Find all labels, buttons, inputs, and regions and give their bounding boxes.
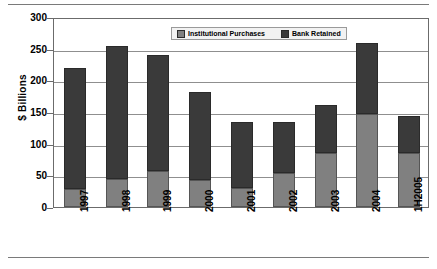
bar-segment bbox=[356, 43, 378, 114]
legend-item: Bank Retained bbox=[281, 30, 341, 38]
y-tick-label: 200 bbox=[3, 75, 47, 86]
y-tick-label: 100 bbox=[3, 139, 47, 150]
x-tick-label: 2001 bbox=[246, 152, 257, 212]
x-tick-label: 2004 bbox=[371, 152, 382, 212]
chart-legend: Institutional PurchasesBank Retained bbox=[171, 27, 347, 40]
x-tick-label: 1H2005 bbox=[413, 152, 424, 212]
x-tick-label: 1997 bbox=[79, 152, 90, 212]
top-divider-rule bbox=[8, 4, 429, 5]
bar-segment bbox=[398, 116, 420, 153]
bar-segment bbox=[315, 105, 337, 153]
legend-swatch-icon bbox=[177, 30, 185, 38]
y-tick-label: 250 bbox=[3, 44, 47, 55]
legend-label: Bank Retained bbox=[292, 30, 341, 37]
legend-swatch-icon bbox=[281, 30, 289, 38]
y-tick-label: 300 bbox=[3, 12, 47, 23]
x-tick-label: 1999 bbox=[162, 152, 173, 212]
x-tick-label: 1998 bbox=[121, 152, 132, 212]
y-axis-title: $ Billions bbox=[17, 58, 28, 138]
legend-item: Institutional Purchases bbox=[177, 30, 265, 38]
y-tick-label: 150 bbox=[3, 107, 47, 118]
y-tick-mark bbox=[47, 208, 53, 209]
x-tick-label: 2000 bbox=[204, 152, 215, 212]
x-tick-label: 2003 bbox=[330, 152, 341, 212]
bottom-divider-rule bbox=[8, 257, 429, 258]
x-tick-label: 2002 bbox=[288, 152, 299, 212]
legend-label: Institutional Purchases bbox=[188, 30, 265, 37]
chart-figure: $ Billions 050100150200250300 1997199819… bbox=[0, 0, 437, 269]
y-tick-label: 0 bbox=[3, 202, 47, 213]
y-tick-label: 50 bbox=[3, 170, 47, 181]
